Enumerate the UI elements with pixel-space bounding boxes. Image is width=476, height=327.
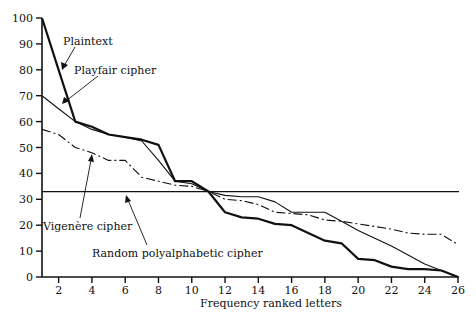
x-tick-label: 10	[185, 284, 199, 297]
frequency-chart: 0102030405060708090100246810121416182022…	[0, 0, 476, 327]
label-vigenere: Vigenère cipher	[42, 220, 133, 233]
label-plaintext: Plaintext	[63, 35, 113, 48]
y-tick-label: 0	[26, 271, 33, 284]
y-tick-label: 90	[19, 38, 33, 51]
label-playfair: Playfair cipher	[74, 64, 157, 77]
x-tick-label: 14	[251, 284, 265, 297]
y-tick-label: 50	[19, 142, 33, 155]
series-lines	[42, 18, 459, 277]
x-tick-label: 16	[285, 284, 299, 297]
y-tick-label: 100	[12, 12, 33, 25]
series-plaintext	[42, 18, 458, 277]
x-tick-label: 26	[451, 284, 465, 297]
label-random: Random polyalphabetic cipher	[92, 247, 263, 260]
y-tick-label: 10	[19, 245, 33, 258]
x-tick-label: 2	[55, 284, 62, 297]
y-tick-label: 20	[19, 219, 33, 232]
y-tick-label: 80	[19, 64, 33, 77]
y-tick-label: 40	[19, 167, 33, 180]
x-tick-label: 18	[318, 284, 332, 297]
x-tick-label: 4	[88, 284, 95, 297]
x-axis-label: Frequency ranked letters	[200, 297, 342, 310]
y-tick-label: 30	[19, 193, 33, 206]
y-tick-label: 70	[19, 90, 33, 103]
x-tick-label: 20	[351, 284, 365, 297]
x-tick-label: 24	[418, 284, 432, 297]
x-tick-label: 12	[218, 284, 232, 297]
y-tick-label: 60	[19, 116, 33, 129]
x-tick-label: 8	[155, 284, 162, 297]
x-tick-label: 6	[122, 284, 129, 297]
x-tick-label: 22	[384, 284, 398, 297]
